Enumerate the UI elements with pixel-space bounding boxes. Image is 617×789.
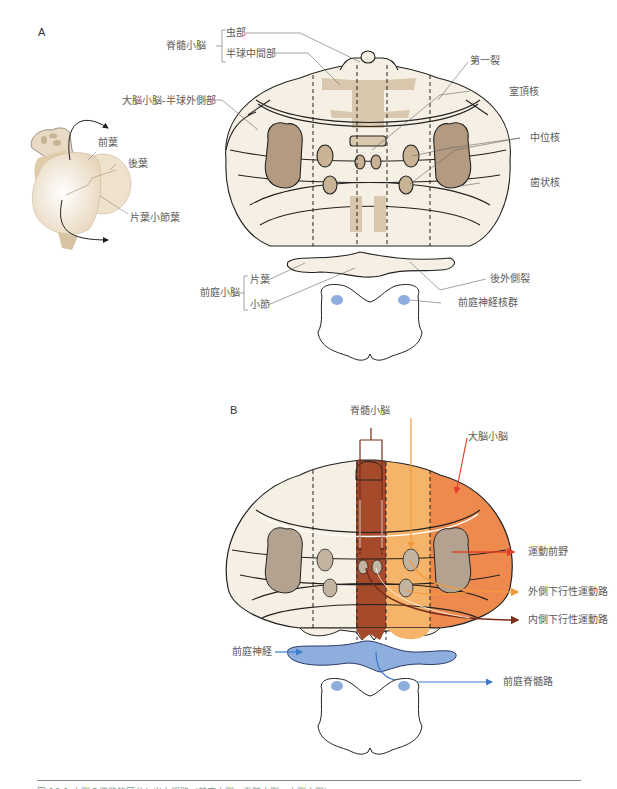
label-premotor-cortex: 運動前野 [528, 546, 568, 558]
label-intermediate-hemisphere: 半球中間部 [226, 48, 276, 60]
label-flocculus: 片葉 [250, 274, 270, 286]
label-vestibular-nerve: 前庭神経 [232, 646, 272, 658]
label-spinocerebellum-b: 脊髄小脳 [350, 405, 390, 417]
label-primary-fissure: 第一裂 [470, 55, 500, 67]
label-cerebrocerebellum-lateral: 大脳小脳-半球外側部 [122, 95, 216, 107]
label-vestibular-nuclei: 前庭神経核群 [458, 297, 518, 309]
figure-caption: 図 18-1 小脳の機能的区分と出力経路（前庭小脳・脊髄小脳・大脳小脳） [37, 785, 581, 789]
label-posterolateral-fissure: 後外側裂 [490, 273, 530, 285]
label-fastigial-nucleus: 室頂核 [509, 86, 539, 98]
label-flocculonodular-lobe: 片葉小節葉 [130, 212, 180, 224]
label-vestibulospinal-tract: 前庭脊髄路 [503, 676, 553, 688]
label-posterior-lobe: 後葉 [128, 158, 148, 170]
flocculonodular-lobe-a [287, 252, 454, 277]
label-interposed-nucleus: 中位核 [530, 132, 560, 144]
label-vestibulocerebellum: 前庭小脳 [200, 287, 240, 299]
label-cerebrocerebellum: 大脳小脳 [468, 431, 508, 443]
label-nodulus: 小節 [250, 299, 270, 311]
flocculonodular-lobe-b [288, 641, 457, 672]
label-lateral-descending-tract: 外側下行性運動路 [528, 586, 608, 598]
label-anterior-lobe: 前葉 [98, 137, 118, 149]
cerebellum-section-a [226, 51, 511, 246]
label-spinocerebellum-a: 脊髄小脳 [166, 40, 206, 52]
label-vermis: 虫部 [226, 27, 246, 39]
cerebellum-illustration [0, 0, 617, 789]
panel-letter-b: B [230, 404, 237, 416]
caption-divider [37, 780, 581, 781]
panel-letter-a: A [38, 26, 45, 38]
cerebellum-section-b [220, 455, 520, 640]
label-dentate-nucleus: 歯状核 [530, 177, 560, 189]
label-medial-descending-tract: 内側下行性運動路 [528, 614, 608, 626]
